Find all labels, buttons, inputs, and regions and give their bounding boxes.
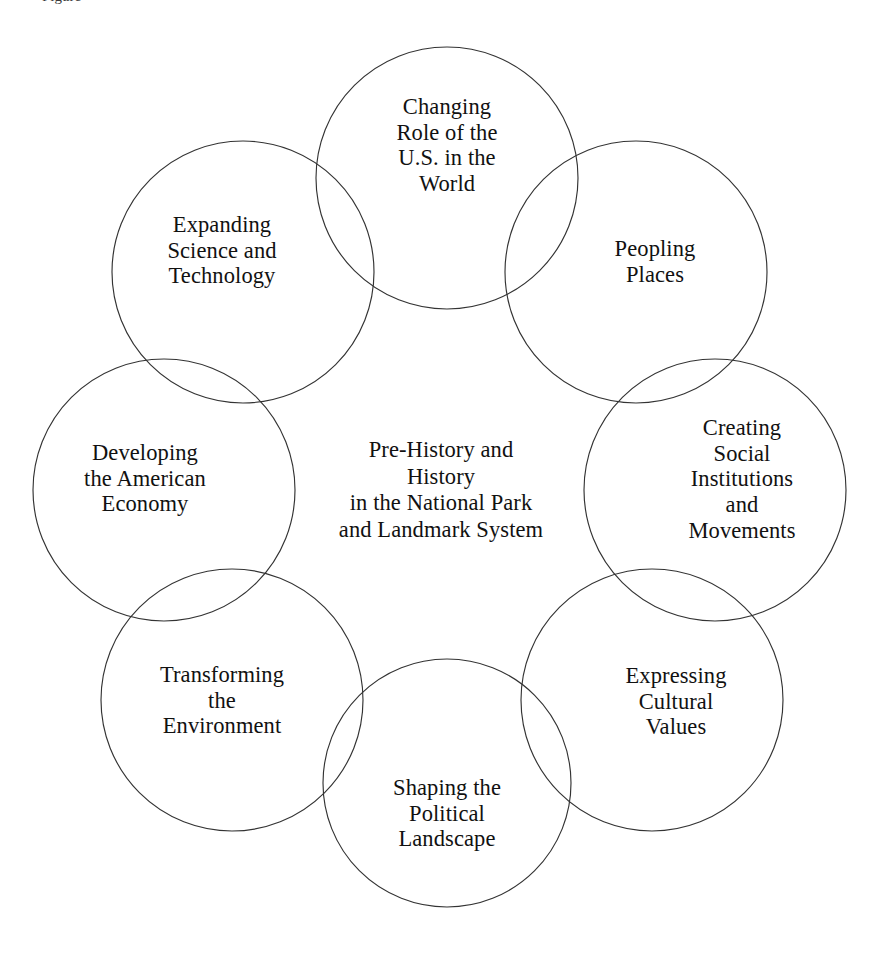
venn-circle-creating-social-institutions-movements	[584, 359, 846, 621]
venn-circle-shaping-political-landscape	[323, 659, 571, 907]
venn-circle-expanding-science-technology	[112, 141, 374, 403]
venn-circle-expressing-cultural-values	[521, 569, 783, 831]
venn-circles-svg	[0, 0, 881, 955]
venn-circle-developing-american-economy	[33, 359, 295, 621]
venn-circle-peopling-places	[505, 141, 767, 403]
venn-diagram: Figure Changing Role of the U.S. in the …	[0, 0, 881, 955]
venn-circle-changing-role-us-world	[316, 47, 578, 309]
